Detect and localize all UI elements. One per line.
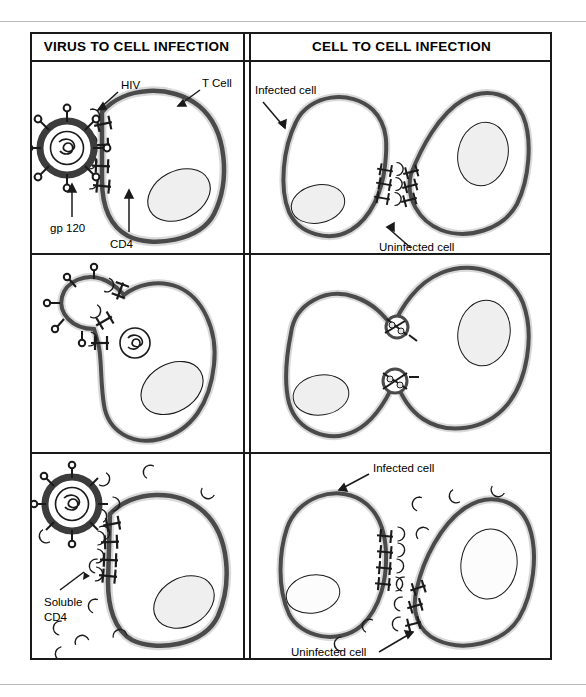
label-infected-cell: Infected cell <box>255 84 316 96</box>
column-divider-left-line <box>243 32 245 660</box>
page-rule-bottom <box>0 684 586 685</box>
infected-cell-nucleus <box>283 571 343 618</box>
label-infected-cell: Infected cell <box>373 462 434 474</box>
label-cd4: CD4 <box>110 238 134 250</box>
header-virus-to-cell: VIRUS TO CELL INFECTION <box>30 32 243 60</box>
uninfected-cell-nucleus <box>452 118 514 191</box>
figure-page: VIRUS TO CELL INFECTION CELL TO CELL INF… <box>0 0 586 697</box>
label-hiv: HIV <box>121 79 141 91</box>
fused-membrane <box>61 277 214 441</box>
fusion-neck-receptor-lower <box>383 369 419 393</box>
label-soluble-cd4-line1: Soluble <box>44 596 82 608</box>
viral-core-released <box>120 328 150 358</box>
panel-r2c2 <box>251 255 550 452</box>
panel-r3c2: Infected cell Uninfected cell <box>251 454 550 660</box>
label-uninfected-cell: Uninfected cell <box>291 646 366 658</box>
uninfected-cell-nucleus <box>453 296 516 370</box>
panel-r1c2: Infected cell Uninfected cell <box>251 62 550 253</box>
label-t-cell: T Cell <box>202 77 232 89</box>
figure-header-band: VIRUS TO CELL INFECTION CELL TO CELL INF… <box>30 32 552 62</box>
panel-r3c1: Soluble CD4 <box>32 454 243 660</box>
infected-cell-membrane <box>281 493 387 637</box>
header-cell-to-cell: CELL TO CELL INFECTION <box>251 32 552 60</box>
infected-cell-nucleus <box>290 371 351 418</box>
uninfected-cell-nucleus <box>456 525 521 602</box>
leader-lines <box>339 474 413 652</box>
label-uninfected-cell: Uninfected cell <box>379 241 454 253</box>
label-gp120: gp 120 <box>50 222 85 234</box>
panel-r1c1: HIV T Cell gp 120 CD4 <box>32 62 243 253</box>
panel-r2c1 <box>32 255 243 452</box>
leader-line-soluble-cd4 <box>60 572 90 590</box>
hiv-virion <box>32 105 110 192</box>
label-soluble-cd4-line2: CD4 <box>44 611 68 623</box>
fusion-neck-receptor-upper <box>385 316 417 341</box>
page-rule-top <box>0 21 586 22</box>
